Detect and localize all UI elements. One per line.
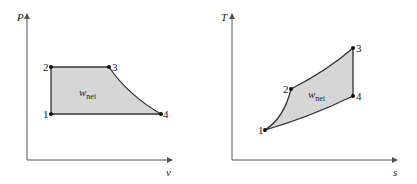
ts-point-3-label: 3 (356, 42, 362, 54)
pv-diagram: P v 1 2 3 4 wnet (16, 11, 172, 178)
ts-point-1 (263, 128, 267, 132)
ts-point-1-label: 1 (258, 124, 264, 136)
pv-point-1 (49, 112, 53, 116)
ts-point-2-label: 2 (283, 83, 289, 95)
ts-point-2 (289, 87, 293, 91)
thermo-cycle-diagrams: P v 1 2 3 4 wnet T s 1 2 3 4 wnet (0, 0, 417, 184)
ts-diagram: T s 1 2 3 4 wnet (221, 11, 397, 178)
pv-y-axis-label: P (16, 11, 24, 23)
ts-y-axis-label: T (221, 11, 228, 23)
pv-cycle-area (51, 67, 161, 114)
pv-point-3 (107, 65, 111, 69)
ts-x-axis-label: s (393, 166, 397, 178)
ts-point-4-label: 4 (356, 90, 362, 102)
pv-point-1-label: 1 (43, 108, 49, 120)
pv-point-2-label: 2 (43, 61, 49, 73)
pv-point-2 (49, 65, 53, 69)
pv-x-axis-label: v (166, 166, 171, 178)
ts-point-3 (351, 46, 355, 50)
pv-point-3-label: 3 (112, 61, 118, 73)
pv-point-4-label: 4 (163, 108, 169, 120)
ts-point-4 (351, 94, 355, 98)
